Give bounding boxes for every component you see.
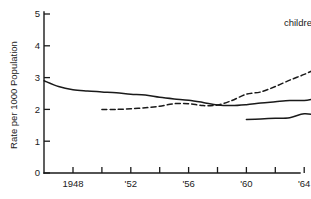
- y-tick-label-4: 4: [35, 40, 40, 51]
- line-chart: 012345 1948'52'56'60'64'68'72 divorcechi…: [0, 0, 311, 199]
- x-tick-label-1952: '52: [125, 178, 137, 189]
- x-axis-ticks: [73, 167, 311, 173]
- y-axis-ticks: [44, 14, 50, 173]
- axes-group: [44, 12, 300, 173]
- series-label-children-in-divorce: children in divorce: [284, 17, 311, 28]
- x-tick-label-1964: '64: [298, 178, 310, 189]
- chart-container: 012345 1948'52'56'60'64'68'72 divorcechi…: [0, 0, 311, 199]
- x-axis-tick-labels: 1948'52'56'60'64'68'72: [62, 178, 311, 189]
- x-tick-label-1956: '56: [182, 178, 194, 189]
- x-tick-label-1948: 1948: [62, 178, 83, 189]
- y-axis-tick-labels: 012345: [35, 8, 40, 178]
- x-tick-label-1960: '60: [240, 178, 252, 189]
- series-line-children-in-divorce: [102, 36, 311, 109]
- y-tick-label-3: 3: [35, 72, 40, 83]
- series-line-divorce: [44, 27, 311, 106]
- series-labels-group: divorcechildren in divorceremarriage: [284, 8, 311, 101]
- y-tick-label-5: 5: [35, 8, 40, 19]
- y-axis-title: Rate per 1000 Population: [8, 41, 19, 149]
- data-series-group: [44, 27, 311, 120]
- y-tick-label-2: 2: [35, 104, 40, 115]
- y-tick-label-0: 0: [35, 167, 40, 178]
- series-line-remarriage: [246, 104, 311, 120]
- y-tick-label-1: 1: [35, 136, 40, 147]
